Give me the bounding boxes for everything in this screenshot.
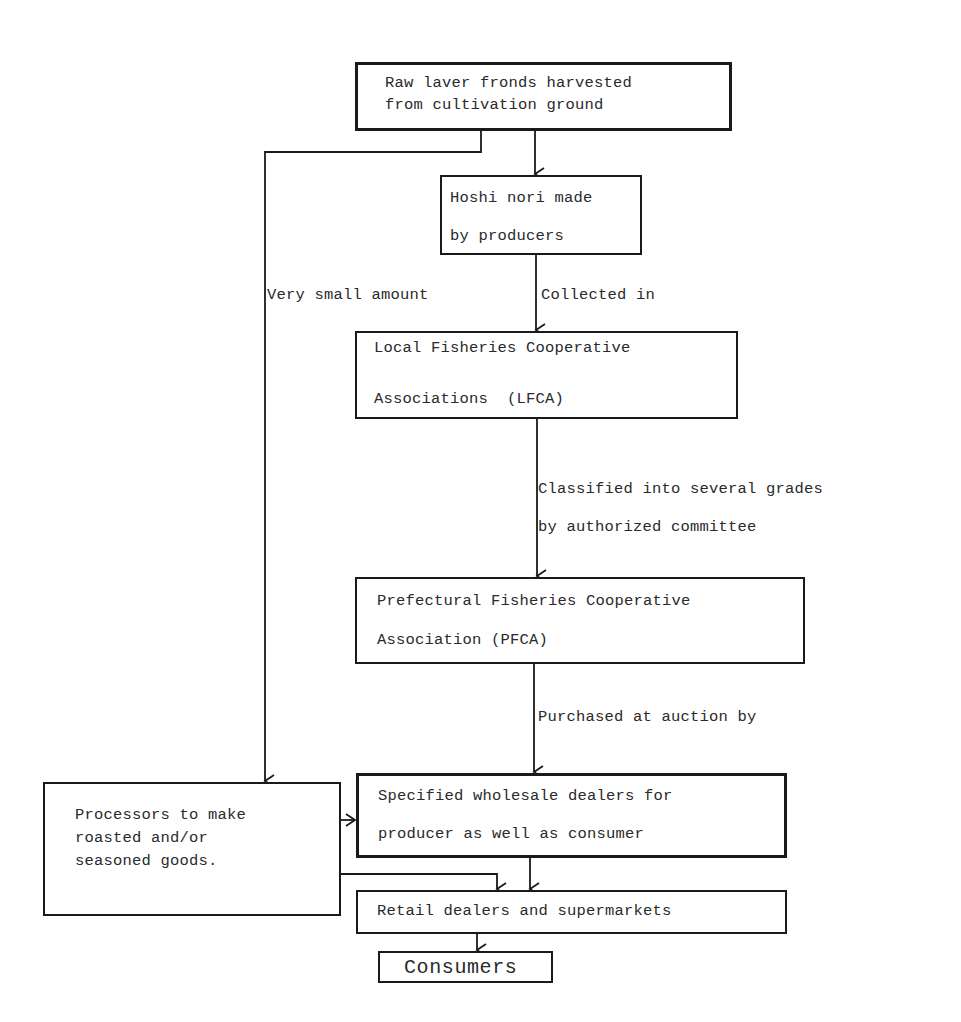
node-hoshi-nori-line2: by producers [450,227,564,245]
edge-label-classified-line2: by authorized committee [538,518,757,536]
edge-label-classified-line1: Classified into several grades [538,480,823,498]
node-retail-dealers: Retail dealers and supermarkets [356,890,787,934]
node-hoshi-nori-line1: Hoshi nori made [450,189,593,207]
node-consumers-label: Consumers [404,956,517,979]
arrow-processors-to-retail [341,874,497,889]
node-wholesale-line1: Specified wholesale dealers for [378,787,673,805]
node-raw-laver: Raw laver fronds harvested from cultivat… [355,62,732,131]
node-pfca: Prefectural Fisheries Cooperative Associ… [355,577,805,664]
node-processors-line2: roasted and/or [75,829,208,847]
edge-label-purchased: Purchased at auction by [538,708,757,726]
node-raw-laver-line1: Raw laver fronds harvested [385,74,632,92]
node-processors-line3: seasoned goods. [75,852,218,870]
node-retail-line1: Retail dealers and supermarkets [377,902,672,920]
node-processors: Processors to make roasted and/or season… [43,782,341,916]
node-hoshi-nori: Hoshi nori made by producers [440,175,642,255]
node-processors-line1: Processors to make [75,806,246,824]
node-consumers: Consumers [378,951,553,983]
edge-label-very-small-amount: Very small amount [267,286,429,304]
node-pfca-line1: Prefectural Fisheries Cooperative [377,592,691,610]
node-lfca-line2: Associations (LFCA) [374,390,564,408]
edge-label-collected-in: Collected in [541,286,655,304]
node-wholesale-line2: producer as well as consumer [378,825,644,843]
node-raw-laver-line2: from cultivation ground [385,96,604,114]
node-pfca-line2: Association (PFCA) [377,631,548,649]
node-wholesale-dealers: Specified wholesale dealers for producer… [356,773,787,858]
node-lfca: Local Fisheries Cooperative Associations… [355,331,738,419]
node-lfca-line1: Local Fisheries Cooperative [374,339,631,357]
